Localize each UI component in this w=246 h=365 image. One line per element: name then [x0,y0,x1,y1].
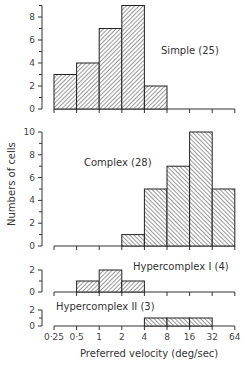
x-tick-label: 32 [206,332,217,342]
histogram-bar [144,189,167,246]
histogram-bar [144,86,167,109]
panel-label-hypercomplex-2: Hypercomplex II (3) [56,301,155,312]
panel-label-complex: Complex (28) [84,157,152,168]
panel-label-hypercomplex-1: Hypercomplex I (4) [133,261,229,272]
histogram-bar [77,281,100,292]
x-tick-label: 0·25 [44,332,64,342]
x-tick-label: 2 [119,332,125,342]
x-axis-title: Preferred velocity (deg/sec) [80,348,218,359]
histogram-bar [54,75,77,110]
histogram-bar [122,6,145,110]
histogram-bar [144,318,167,326]
y-tick-label: 6 [29,35,35,45]
y-tick-label: 4 [29,195,35,205]
histogram-bar [99,29,122,110]
histogram-bar [122,281,145,292]
histogram-bar [77,63,100,109]
y-tick-label: 2 [29,218,35,228]
panel-label-simple: Simple (25) [161,45,219,56]
y-axis-title: Numbers of cells [6,142,17,226]
y-tick-label: 8 [29,150,35,160]
histogram-bar [99,270,122,292]
y-tick-label: 2 [29,265,35,275]
y-tick-label: 0 [29,287,35,297]
x-tick-label: 64 [229,332,241,342]
histogram-bar [122,235,145,246]
y-tick-label: 0 [29,241,35,251]
y-tick-label: 4 [29,58,35,68]
y-tick-label: 2 [29,81,35,91]
panel-1: 02468 [29,6,235,115]
x-tick-label: 8 [164,332,170,342]
y-tick-label: 0 [29,321,35,331]
histogram-bar [190,132,213,246]
y-tick-label: 2 [29,305,35,315]
histogram-bar [167,318,190,326]
histogram-bar [167,166,190,246]
y-tick-label: 0 [29,104,35,114]
y-tick-label: 8 [29,12,35,22]
histogram-chart: 02468024681002020·250·51248163264 Simple… [0,0,246,365]
panel-2: 0246810 [24,127,235,251]
x-tick-label: 0·5 [69,332,83,342]
x-tick-label: 1 [96,332,102,342]
histogram-bar [190,318,213,326]
histogram-bar [212,189,235,246]
x-tick-label: 16 [184,332,196,342]
y-tick-label: 10 [24,127,36,137]
x-tick-label: 4 [142,332,148,342]
y-tick-label: 6 [29,173,35,183]
